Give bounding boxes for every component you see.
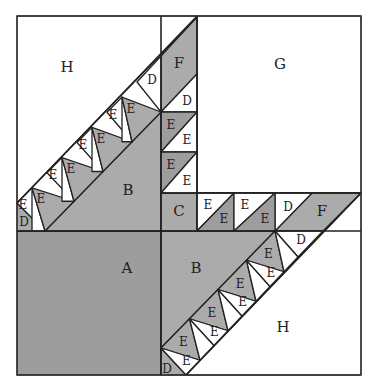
piece-label: E [236,277,245,291]
piece-label: E [167,158,176,172]
piece-label: D [283,200,293,214]
piece-label: H [60,58,73,76]
piece-label: E [37,192,46,206]
piece-label: D [147,73,157,87]
piece-label: E [220,212,229,226]
piece-label: E [182,354,191,368]
piece-g [197,16,361,193]
piece-label: E [167,118,176,132]
piece-a [17,231,161,375]
piece-label: E [264,247,273,261]
piece-label: E [204,198,213,212]
piece-label: D [182,94,192,108]
piece-label: F [317,202,327,220]
piece-label: E [97,132,106,146]
piece-label: E [207,306,216,320]
piece-label: D [296,233,306,247]
piece-label: E [109,108,118,122]
piece-label: E [179,335,188,349]
piece-label: F [174,54,184,72]
piece-label: E [79,138,88,152]
piece-label: E [210,325,219,339]
piece-label: E [183,133,192,147]
piece-label: D [162,362,172,376]
quilt-block-diagram: ABBCGHHFFDDDDDDEEEEEEEEEEEEEEEEEEEEEEEE [0,0,375,386]
piece-label: C [173,202,184,220]
piece-label: E [183,174,192,188]
piece-label: A [121,259,133,277]
piece-label: D [19,215,29,229]
piece-label: H [276,318,289,336]
piece-label: E [266,266,275,280]
piece-label: E [19,198,28,212]
piece-label: E [238,295,247,309]
piece-label: E [49,168,58,182]
diagram-canvas: ABBCGHHFFDDDDDDEEEEEEEEEEEEEEEEEEEEEEEE [0,0,375,386]
piece-label: E [241,198,250,212]
piece-label: E [127,102,136,116]
piece-label: B [122,181,133,199]
piece-label: G [274,55,286,73]
piece-label: E [261,212,270,226]
piece-label: E [67,162,76,176]
piece-label: B [190,259,201,277]
